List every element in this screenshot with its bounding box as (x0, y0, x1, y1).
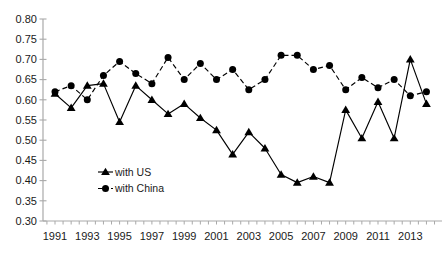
series-line-with-us (55, 59, 426, 182)
legend: with USwith China (98, 166, 164, 195)
data-point-with-china (68, 82, 75, 89)
x-tick-label: 1999 (172, 230, 196, 242)
legend-label-with-us: with US (114, 166, 151, 178)
y-tick-label: 0.65 (16, 73, 37, 85)
series-group (51, 52, 431, 186)
y-axis-labels: 0.300.350.400.450.500.550.600.650.700.75… (16, 13, 37, 227)
y-tick-label: 0.60 (16, 94, 37, 106)
data-point-with-us (406, 55, 415, 62)
series-line-with-china (55, 55, 426, 99)
x-tick-label: 1991 (43, 230, 67, 242)
data-point-with-china (278, 52, 285, 59)
y-tick-label: 0.70 (16, 53, 37, 65)
data-point-with-china (100, 72, 107, 79)
data-point-with-china (181, 76, 188, 83)
data-point-with-china (165, 54, 172, 61)
data-point-with-china (310, 66, 317, 73)
data-point-with-us (99, 79, 108, 86)
chart-canvas: 0.300.350.400.450.500.550.600.650.700.75… (0, 0, 448, 257)
data-point-with-us (422, 100, 431, 107)
data-point-with-us (277, 170, 286, 177)
x-tick-label: 1995 (107, 230, 131, 242)
series-with-us (51, 55, 431, 186)
data-point-with-us (390, 134, 399, 141)
data-point-with-us (131, 81, 140, 88)
data-point-with-china (229, 66, 236, 73)
legend-label-with-china: with China (114, 182, 164, 194)
data-point-with-china (116, 58, 123, 65)
y-tick-label: 0.80 (16, 13, 37, 25)
x-tick-label: 2003 (237, 230, 261, 242)
x-tick-label: 2005 (269, 230, 293, 242)
data-point-with-us (341, 106, 350, 113)
data-point-with-china (197, 60, 204, 67)
data-point-with-china (148, 80, 155, 87)
data-point-with-china (132, 70, 139, 77)
y-tick-label: 0.55 (16, 114, 37, 126)
y-tick-label: 0.35 (16, 195, 37, 207)
line-chart: 0.300.350.400.450.500.550.600.650.700.75… (0, 0, 448, 257)
data-point-with-china (52, 88, 59, 95)
data-point-with-us (374, 98, 383, 105)
x-tick-label: 1993 (75, 230, 99, 242)
y-tick-label: 0.45 (16, 154, 37, 166)
y-tick-label: 0.75 (16, 33, 37, 45)
data-point-with-china (84, 96, 91, 103)
legend-item-with-us: with US (98, 166, 151, 178)
legend-triangle-icon (101, 168, 110, 175)
data-point-with-us (228, 150, 237, 157)
data-point-with-china (294, 52, 301, 59)
data-point-with-china (391, 76, 398, 83)
x-tick-label: 2013 (398, 230, 422, 242)
data-point-with-china (213, 76, 220, 83)
data-point-with-china (358, 74, 365, 81)
data-point-with-us (357, 134, 366, 141)
x-tick-label: 2007 (301, 230, 325, 242)
data-point-with-china (375, 84, 382, 91)
data-point-with-china (245, 86, 252, 93)
data-point-with-china (423, 88, 430, 95)
x-tick-label: 2009 (333, 230, 357, 242)
x-tick-label: 1997 (140, 230, 164, 242)
legend-circle-icon (102, 185, 109, 192)
x-tick-label: 2011 (366, 230, 390, 242)
y-tick-label: 0.40 (16, 174, 37, 186)
y-tick-label: 0.50 (16, 134, 37, 146)
x-axis-labels: 1991199319951997199920012003200520072009… (43, 230, 423, 242)
data-point-with-us (309, 172, 318, 179)
data-point-with-china (342, 86, 349, 93)
data-point-with-us (212, 126, 221, 133)
data-point-with-china (261, 76, 268, 83)
x-tick-label: 2001 (204, 230, 228, 242)
y-tick-label: 0.30 (16, 215, 37, 227)
data-point-with-us (244, 128, 253, 135)
legend-item-with-china: with China (98, 182, 164, 194)
data-point-with-us (115, 118, 124, 125)
data-point-with-china (326, 62, 333, 69)
data-point-with-us (180, 100, 189, 107)
data-point-with-china (407, 92, 414, 99)
